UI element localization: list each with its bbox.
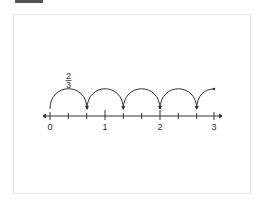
- svg-text:3: 3: [66, 80, 71, 90]
- axis-label-1: 1: [102, 122, 107, 132]
- jump-arc-3: [123, 89, 160, 109]
- jump-arc-1: [50, 89, 87, 109]
- jump-arc-4: [160, 89, 197, 109]
- jump-fraction-label: 2 3: [66, 71, 72, 90]
- jump-arc-5: [197, 89, 214, 109]
- jump-arcs: [50, 89, 214, 109]
- axis-labels: 0 1 2 3: [47, 122, 216, 132]
- number-line-diagram: 2 3 0 1 2 3: [0, 0, 263, 202]
- axis-label-2: 2: [157, 122, 162, 132]
- number-line-axis: [43, 110, 222, 120]
- jump-arc-2: [87, 89, 123, 109]
- axis-label-3: 3: [211, 122, 216, 132]
- axis-label-0: 0: [47, 122, 52, 132]
